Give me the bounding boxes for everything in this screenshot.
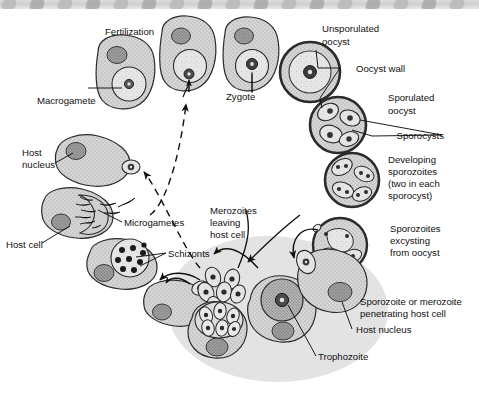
stage-schizont-releasing	[188, 302, 247, 359]
label-sporozoites-excysting-line1: Sporozoites	[390, 223, 441, 234]
label-zygote: Zygote	[226, 91, 255, 102]
stage-sporulated-oocyst	[310, 97, 366, 153]
label-developing-sporozoites-line1: Developing	[388, 154, 436, 165]
stage-schizonts	[87, 239, 157, 290]
label-unsporulated-oocyst-line1: Unsporulated	[322, 23, 379, 34]
stage-macrogamete	[96, 35, 155, 109]
stage-host-cell-gamete	[55, 135, 140, 187]
label-trophozoite: Trophozoite	[318, 351, 368, 362]
label-sporulated-oocyst-line2: oocyst	[388, 105, 416, 116]
diagram-canvas: Fertilization Macrogamete Host nucleus H…	[0, 0, 479, 395]
scan-artifact-strip	[0, 0, 479, 9]
label-oocyst-wall: Oocyst wall	[356, 63, 405, 74]
label-developing-sporozoites-line2: sporozoites	[388, 166, 437, 177]
label-penetrating-line1: Sporozoite or merozoite	[360, 296, 462, 307]
label-host-nucleus-right: Host nucleus	[356, 324, 412, 335]
label-unsporulated-oocyst-line2: oocyst	[322, 36, 350, 47]
label-developing-sporozoites-line4: sporocyst)	[388, 190, 432, 201]
label-host-nucleus-left-line1: Host	[22, 147, 42, 158]
stage-fertilization	[160, 16, 216, 97]
bottom-margin	[0, 385, 479, 395]
label-merozoites-leaving-line2: leaving	[210, 217, 240, 228]
stage-microgametes	[42, 188, 135, 239]
stage-unsporulated-oocyst	[280, 42, 340, 102]
stage-developing-sporozoites	[325, 153, 379, 207]
label-merozoites-leaving-line3: host cell	[210, 229, 245, 240]
label-macrogamete: Macrogamete	[37, 95, 96, 106]
label-fertilization: Fertilization	[105, 26, 154, 37]
label-host-nucleus-left-line2: nucleus	[22, 159, 55, 170]
label-penetrating-line2: penetrating host cell	[360, 308, 446, 319]
label-merozoites-leaving-line1: Merozoites	[210, 205, 257, 216]
label-host-cell: Host cell	[6, 239, 43, 250]
stage-zygote	[223, 17, 279, 92]
label-sporocysts: Sporocysts	[397, 130, 445, 141]
label-sporulated-oocyst-line1: Sporulated	[388, 92, 434, 103]
label-schizonts: Schizonts	[168, 248, 210, 259]
label-sporozoites-excysting-line2: excysting	[390, 235, 430, 246]
label-sporozoites-excysting-line3: from oocyst	[390, 247, 440, 258]
life-cycle-diagram: Fertilization Macrogamete Host nucleus H…	[0, 0, 479, 395]
label-microgametes: Microgametes	[124, 217, 184, 228]
label-developing-sporozoites-line3: (two in each	[388, 178, 440, 189]
